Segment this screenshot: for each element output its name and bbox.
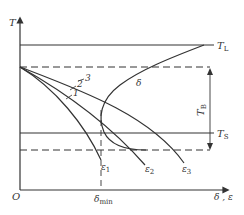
tb-label: TB [195,104,208,116]
delta-curve [101,45,204,150]
line-label-3: 3 [85,73,91,83]
line-label-1: 1 [73,88,79,98]
ts-label: TS [217,128,229,141]
x-axis-label: δ , ε [214,192,233,202]
epsilon-1-label: ε1 [101,162,110,174]
delta-curve-label: δ [136,78,141,88]
phase-diagram: T O δ , ε TL TS TB δ 1 2 3 ε1 ε2 ε3 δmin [0,0,244,215]
delta-min-label: δmin [94,194,113,206]
epsilon-2-label: ε2 [145,164,154,176]
line-label-2: 2 [76,79,83,89]
origin-label: O [12,191,20,202]
tl-label: TL [217,40,229,53]
epsilon-3-label: ε3 [182,164,191,176]
y-axis-label: T [9,17,17,28]
